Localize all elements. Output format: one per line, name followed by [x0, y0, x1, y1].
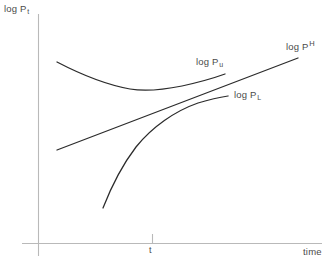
- curve-label-straight-line: log PH: [286, 42, 314, 52]
- curve-label-straight-line-text: log P: [286, 41, 309, 52]
- curve-straight-line: [57, 58, 298, 150]
- curve-label-lower-bound-subscript: L: [257, 94, 261, 101]
- curve-label-upper-bound-text: log P: [196, 56, 219, 67]
- curve-label-lower-bound: log PL: [234, 90, 261, 100]
- x-axis-tick-label: t: [149, 246, 152, 255]
- curve-label-lower-bound-text: log P: [234, 89, 257, 100]
- y-axis-label-text: log P: [4, 3, 27, 14]
- y-axis-label: log Pt: [4, 4, 29, 14]
- y-axis-label-subscript: t: [27, 8, 29, 15]
- figure-container: log Pt log Pu log PH log PL t time: [0, 0, 334, 265]
- plot-canvas: [0, 0, 334, 265]
- x-axis-label: time: [303, 247, 322, 257]
- curve-label-upper-bound-subscript: u: [219, 61, 223, 68]
- curve-lower-bound: [103, 96, 228, 208]
- curve-label-straight-line-superscript: H: [309, 39, 315, 48]
- curve-label-upper-bound: log Pu: [196, 57, 223, 67]
